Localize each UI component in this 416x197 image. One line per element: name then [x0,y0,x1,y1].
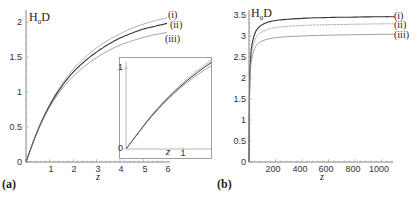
x-tick-label: 1000 [369,164,389,174]
panel-a: 0 0.5 1 1.5 2 1 2 3 4 5 6 z H0D (i) (ii)… [2,9,212,191]
figure: 0 0.5 1 1.5 2 1 2 3 4 5 6 z H0D (i) (ii)… [0,0,416,197]
y-tick-label: 2 [17,17,22,27]
x-axis-label: z [95,171,100,182]
y-tick-label: 0 [241,157,246,167]
panel-label-b: (b) [217,177,232,191]
y-tick-label: 1 [17,87,22,97]
x-tick-label: 5 [142,164,147,174]
y-tick-label: 0 [17,157,22,167]
y-tick-label: 3.5 [233,10,246,20]
y-tick-label: 2.5 [233,52,246,62]
x-axis-label: z [319,171,324,182]
inset-y-tick: 1 [118,62,123,72]
y-tick-label: 1 [241,115,246,125]
y-tick-label: 1.5 [233,94,246,104]
y-tick-label: 0.5 [233,136,246,146]
y-axis-label: H0D [29,10,50,26]
x-tick-label: 800 [345,164,360,174]
inset-x-tick: 1 [180,148,185,158]
inset-plot: 1 0 1 z [118,58,212,159]
panel-b: 0 0.5 1 1.5 2 2.5 3 3.5 200 400 600 800 … [217,6,409,191]
panel-label-a: (a) [2,177,16,191]
y-tick-label: 2 [241,73,246,83]
x-tick-label: 1 [48,164,53,174]
curve-ii [249,24,395,162]
x-tick-label: 200 [265,164,280,174]
y-tick-label: 0.5 [9,122,22,132]
legend-label-iii: (iii) [394,29,409,41]
x-tick-label: 400 [292,164,307,174]
inset-x-label: z [165,147,171,157]
legend-label-iii: (iii) [165,33,180,45]
x-tick-label: 6 [165,164,170,174]
y-axis-label: H0D [251,6,272,22]
y-tick-label: 3 [241,31,246,41]
x-tick-label: 2 [71,164,76,174]
inset-y-tick: 0 [118,143,123,153]
curve-iii [249,34,395,162]
legend-label-ii: (ii) [170,19,182,31]
y-tick-label: 1.5 [9,52,22,62]
x-tick-label: 4 [118,164,123,174]
